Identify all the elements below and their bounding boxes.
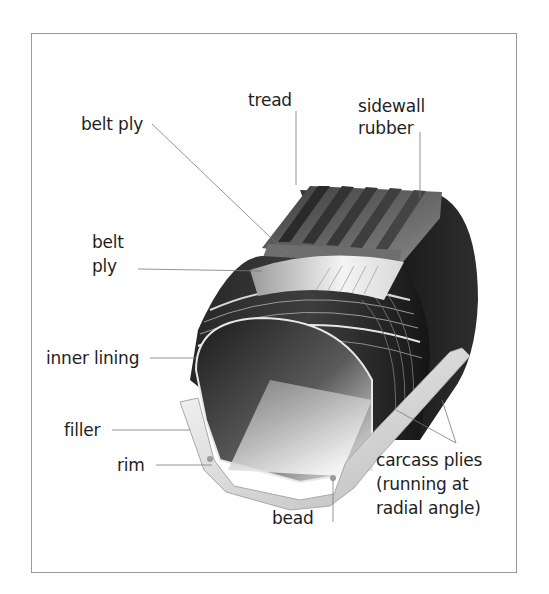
label-sidewall-line1: sidewall — [358, 96, 425, 117]
label-belt-ply-mid-line1: belt — [92, 232, 124, 253]
label-bead: bead — [272, 508, 314, 529]
label-tread: tread — [248, 90, 292, 111]
leader-belt-ply-top — [152, 124, 292, 258]
label-filler: filler — [64, 420, 100, 441]
label-rim: rim — [117, 455, 145, 476]
label-sidewall-line2: rubber — [358, 118, 414, 139]
label-carcass-line3: radial angle) — [376, 498, 481, 519]
label-belt-ply-top: belt ply — [81, 114, 143, 135]
label-carcass-line1: carcass plies — [376, 450, 482, 471]
label-belt-ply-mid-line2: ply — [92, 256, 117, 277]
label-inner-lining: inner lining — [46, 348, 139, 369]
label-carcass-line2: (running at — [376, 474, 469, 495]
